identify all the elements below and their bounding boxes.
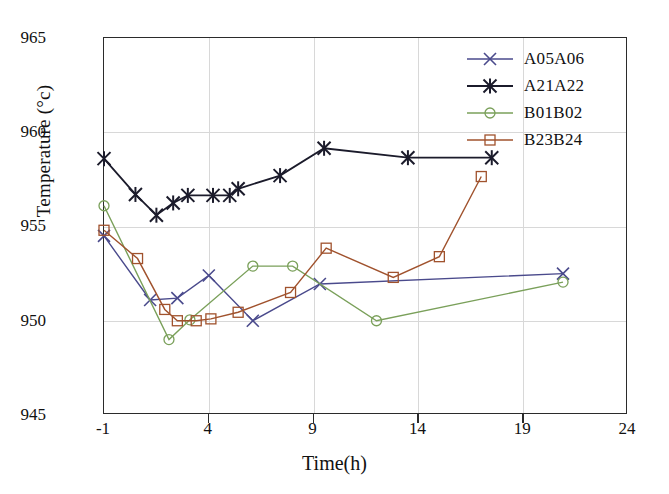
data-point-asterisk [98,151,111,166]
legend-item-B23B24[interactable]: B23B24 [465,126,623,153]
legend-item-A05A06[interactable]: A05A06 [465,45,623,72]
data-point-x [98,230,110,242]
series-line [104,148,492,215]
y-axis-label: Temperature (°c) [33,21,55,281]
x-tick-label: 9 [283,420,343,437]
data-point-x [203,270,215,282]
legend-item-A21A22[interactable]: A21A22 [465,72,623,99]
x-tick-label: 4 [178,420,238,437]
legend-marker-x-icon [465,49,515,69]
x-axis-label: Time(h) [0,452,669,475]
legend-label: B23B24 [515,131,582,148]
data-point-x [247,315,259,327]
chart-legend: A05A06A21A22B01B02B23B24 [465,45,623,153]
y-tick-label: 950 [0,312,46,329]
y-tick-label: 945 [0,406,46,423]
series-line [104,236,563,321]
data-point-asterisk [274,168,287,183]
data-point-circle [558,277,568,287]
legend-marker-asterisk-icon [465,76,515,96]
legend-label: B01B02 [515,104,582,121]
data-point-asterisk [129,187,142,202]
data-point-asterisk [167,195,180,210]
x-tick-label: 14 [387,420,447,437]
data-point-asterisk [150,208,163,223]
legend-marker-circle-icon [465,103,515,123]
x-tick-label: -1 [73,420,133,437]
data-point-asterisk [232,181,245,196]
x-tick-label: 19 [492,420,552,437]
series-B23B24 [99,172,486,326]
series-A21A22 [98,141,499,223]
legend-item-B01B02[interactable]: B01B02 [465,99,623,126]
legend-label: A21A22 [515,77,584,94]
x-tick-label: 24 [597,420,657,437]
data-point-square [476,172,486,182]
chart-root: 965 960 955 950 945 Temperature (°c) -1 … [0,0,669,494]
x-axis-label-text: Time(h) [302,452,367,474]
y-axis-label-text: Temperature (°c) [33,85,54,217]
legend-marker-square-icon [465,130,515,150]
legend-label: A05A06 [515,50,584,67]
series-B01B02 [99,201,568,345]
